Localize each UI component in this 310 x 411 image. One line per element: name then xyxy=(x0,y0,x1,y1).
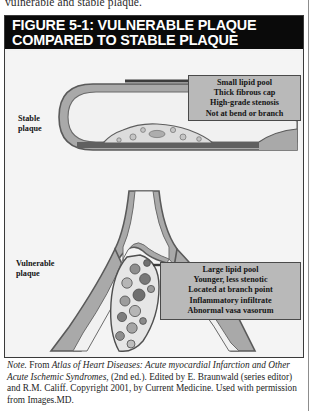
vulnerable-callout-item: Inflammatory infiltrate xyxy=(161,296,300,306)
vulnerable-plaque-label-line-1: Vulnerable xyxy=(16,259,72,269)
figure-frame: FIGURE 5-1: VULNERABLE PLAQUE COMPARED T… xyxy=(4,15,304,358)
stable-plaque-callout-box: Small lipid pool Thick fibrous cap High-… xyxy=(188,75,301,121)
figure-title-bar: FIGURE 5-1: VULNERABLE PLAQUE COMPARED T… xyxy=(5,16,303,49)
stable-plaque-label-line-2: plaque xyxy=(18,124,64,134)
stable-plaque-label: Stable plaque xyxy=(18,114,64,133)
note-label: Note. xyxy=(7,360,27,370)
figure-title-line-1: FIGURE 5-1: VULNERABLE PLAQUE xyxy=(12,18,303,33)
stable-callout-item: High-grade stenosis xyxy=(189,98,300,108)
vulnerable-callout-item: Younger, less stenotic xyxy=(161,275,300,285)
page-edge-rule xyxy=(308,0,309,411)
vulnerable-plaque-callout-box: Large lipid pool Younger, less stenotic … xyxy=(160,262,301,320)
figure-source-note: Note. From Atlas of Heart Diseases: Acut… xyxy=(7,360,303,406)
vulnerable-callout-item: Abnormal vasa vasorum xyxy=(161,306,300,316)
page-text-above-figure: vulnerable and stable plaque. xyxy=(5,0,305,10)
stable-plaque-label-line-1: Stable xyxy=(18,114,64,124)
stable-callout-item: Not at bend or branch xyxy=(189,109,300,119)
stable-callout-item: Thick fibrous cap xyxy=(189,88,300,98)
vulnerable-callout-item: Large lipid pool xyxy=(161,265,300,275)
vulnerable-callout-item: Located at branch point xyxy=(161,285,300,295)
figure-title-line-2: COMPARED TO STABLE PLAQUE xyxy=(12,33,303,48)
vulnerable-plaque-label: Vulnerable plaque xyxy=(16,259,72,278)
stable-callout-item: Small lipid pool xyxy=(189,78,300,88)
note-text-before-title: From xyxy=(27,360,52,370)
vulnerable-plaque-label-line-2: plaque xyxy=(16,269,72,279)
